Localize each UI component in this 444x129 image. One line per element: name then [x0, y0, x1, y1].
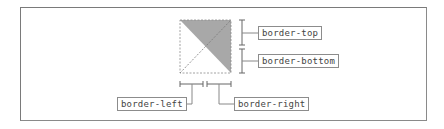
label-border-left: border-left [117, 97, 187, 111]
label-border-top: border-top [258, 26, 322, 40]
label-border-right: border-right [234, 97, 309, 111]
bracket-right [207, 81, 234, 104]
bracket-bottom [239, 49, 258, 73]
bracket-top [239, 20, 258, 45]
border-triangle-diagram [0, 0, 444, 129]
label-border-bottom: border-bottom [258, 54, 339, 68]
